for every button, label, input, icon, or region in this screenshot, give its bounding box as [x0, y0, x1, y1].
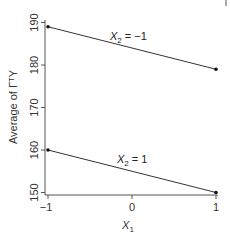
series-x2-plus-1: X2 = 1: [46, 148, 218, 194]
y-tick-label: 190: [28, 13, 40, 31]
y-tick-label: 170: [28, 98, 40, 116]
y-tick-label: 180: [28, 56, 40, 74]
data-point: [214, 191, 218, 195]
x-axis-ticks: [48, 195, 216, 199]
y-axis-ticks: [41, 23, 45, 193]
y-axis-title: Average of ΓᵀY: [7, 69, 19, 144]
x-tick-label: −1: [40, 201, 53, 213]
y-tick-label: 160: [28, 141, 40, 159]
data-point: [214, 67, 218, 71]
data-point: [46, 25, 50, 29]
y-axis-tick-labels: 150 160 170 180 190: [28, 13, 40, 201]
interaction-plot: 150 160 170 180 190 −1 0 1 X1 Average of…: [0, 0, 230, 243]
x-axis-title: X1: [121, 219, 134, 234]
data-point: [46, 148, 50, 152]
y-tick-label: 150: [28, 183, 40, 201]
x-tick-label: 1: [213, 201, 219, 213]
series-label: X2 = 1: [116, 153, 147, 168]
x-axis-tick-labels: −1 0 1: [40, 201, 219, 213]
x-tick-label: 0: [129, 201, 135, 213]
series-label: X2 = −1: [109, 30, 147, 45]
series-x2-minus-1: X2 = −1: [46, 25, 218, 71]
